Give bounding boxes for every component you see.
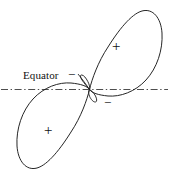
upper-lobe-polarity-plus: + [112, 39, 120, 54]
radiation-pattern-diagram [0, 0, 170, 178]
upper-minor-lobe-polarity-minus: − [68, 68, 75, 81]
upper-major-lobe [90, 10, 163, 96]
lower-minor-lobe-polarity-minus: − [104, 96, 111, 109]
equator-label: Equator [23, 69, 59, 82]
lower-lobe-polarity-plus: + [44, 123, 52, 138]
antenna-pattern-figure: Equator + + − − [0, 0, 170, 178]
lower-minor-lobe [89, 90, 97, 103]
lower-major-lobe [17, 83, 90, 169]
